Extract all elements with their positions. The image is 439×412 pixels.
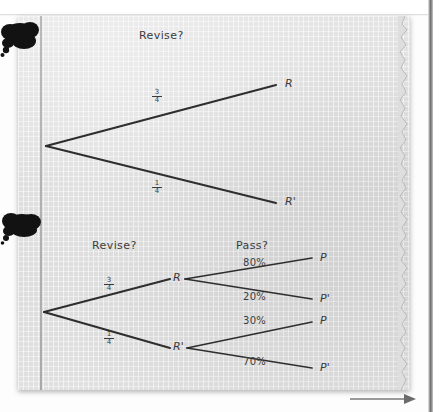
bottom-tree-stage2-probability-1: 80% (243, 258, 266, 268)
bottom-tree-outcome-P-2: P (320, 315, 327, 326)
bottom-tree-outcome-P-1: P (320, 252, 327, 263)
bottom-tree-node-R-prime: R' (173, 341, 184, 352)
bottom-tree-node-R: R (173, 272, 181, 283)
bottom-tree-header-pass: Pass? (236, 240, 268, 251)
fraction-numerator: 1 (104, 331, 114, 338)
top-tree-outcome-R: R (285, 78, 293, 89)
top-tree-outcome-R-prime: R' (285, 196, 296, 207)
torn-paper-edge (398, 16, 412, 390)
fraction-numerator: 1 (152, 180, 162, 187)
bottom-tree-stage2-probability-2: 20% (243, 292, 266, 302)
bottom-tree-stage1-branch-1-probability: 3 4 (104, 277, 114, 293)
fraction-numerator: 3 (152, 89, 162, 96)
bottom-tree-stage1-branch-2-probability: 1 4 (104, 331, 114, 347)
fraction-denominator: 4 (104, 284, 114, 292)
ink-blot-thought-bubble-icon (0, 204, 48, 250)
ink-blot-thought-bubble-icon (0, 18, 48, 62)
bottom-tree-outcome-P-prime-2: P' (320, 362, 330, 373)
top-tree-branch-2-probability: 1 4 (152, 180, 162, 196)
fraction-numerator: 3 (104, 277, 114, 284)
top-tree-header: Revise? (139, 30, 184, 41)
scanned-page-sheet (18, 16, 410, 390)
book-outer-edge (433, 0, 439, 412)
bottom-tree-outcome-P-prime-1: P' (320, 293, 330, 304)
bottom-tree-stage2-probability-3: 30% (243, 316, 266, 326)
top-tree-branch-1-probability: 3 4 (152, 89, 162, 105)
page-margin-rule (40, 16, 42, 390)
page-screenshot: Revise? 3 4 1 4 R R' Revise? Pass? 3 4 1… (0, 0, 439, 412)
bottom-tree-stage2-probability-4: 70% (243, 357, 266, 367)
fraction-denominator: 4 (152, 96, 162, 104)
fraction-denominator: 4 (152, 187, 162, 195)
right-arrow-icon (348, 392, 418, 406)
bottom-tree-header-revise: Revise? (92, 240, 137, 251)
fraction-denominator: 4 (104, 338, 114, 346)
